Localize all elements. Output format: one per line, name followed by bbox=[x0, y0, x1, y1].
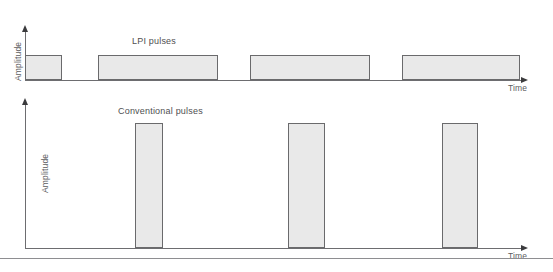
y-axis-line-conventional bbox=[25, 104, 26, 249]
chart-lpi-pulses: Amplitude Time LPI pulses bbox=[0, 26, 553, 88]
page-bottom-rule bbox=[0, 258, 553, 259]
x-axis-arrow-conventional bbox=[521, 245, 528, 251]
lpi-pulse-2 bbox=[98, 55, 218, 80]
chart-conventional-pulses: Amplitude Time Conventional pulses bbox=[0, 98, 553, 258]
y-axis-label-conventional: Amplitude bbox=[40, 154, 50, 193]
x-axis-line-lpi bbox=[25, 80, 522, 81]
x-axis-label-conventional: Time bbox=[508, 251, 527, 261]
x-axis-arrow-lpi bbox=[521, 77, 528, 83]
conventional-pulse-2 bbox=[288, 123, 325, 248]
conventional-pulse-1 bbox=[135, 123, 163, 248]
lpi-pulse-3 bbox=[250, 55, 370, 80]
series-label-conventional-pulses: Conventional pulses bbox=[118, 106, 203, 116]
series-label-lpi-pulses: LPI pulses bbox=[132, 36, 176, 46]
clipped-header-remnant bbox=[8, 0, 218, 4]
lpi-pulse-1 bbox=[25, 55, 62, 80]
lpi-pulse-4 bbox=[402, 55, 520, 80]
y-axis-arrow-lpi bbox=[22, 25, 28, 32]
y-axis-label-lpi: Amplitude bbox=[13, 42, 23, 81]
x-axis-line-conventional bbox=[25, 248, 522, 249]
conventional-pulse-3 bbox=[442, 123, 478, 248]
pulse-comparison-figure: Amplitude Time LPI pulses Amplitude Time… bbox=[0, 0, 553, 272]
x-axis-label-lpi: Time bbox=[508, 83, 527, 93]
y-axis-arrow-conventional bbox=[22, 98, 28, 105]
